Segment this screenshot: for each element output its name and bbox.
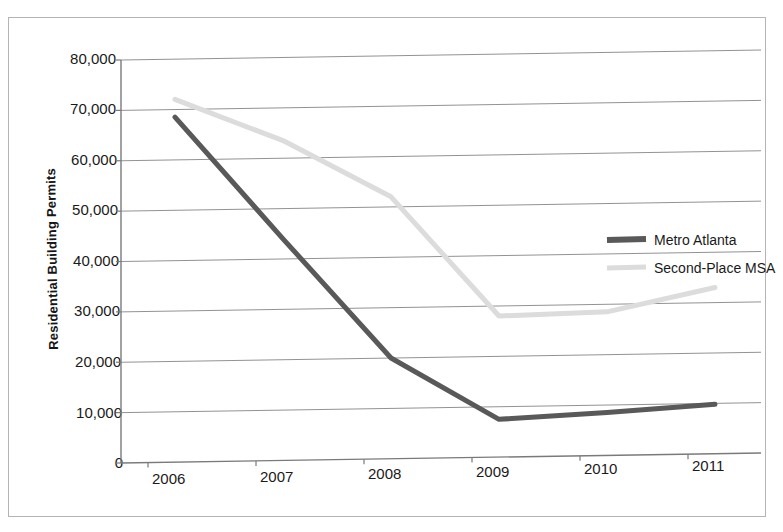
gridline [121, 201, 761, 211]
x-axis-line [121, 453, 761, 463]
gridlines-group [121, 50, 761, 413]
gridline [121, 100, 761, 110]
gridline [121, 50, 761, 60]
gridline [121, 302, 761, 312]
gridline [121, 151, 761, 161]
legend-swatch-metro-atlanta [607, 239, 646, 240]
chart-figure: Residential Building Permits 80,000 70,0… [0, 0, 783, 532]
plot-canvas [0, 0, 783, 532]
legend-swatch-second-place-msa [607, 267, 646, 268]
gridline [121, 352, 761, 362]
